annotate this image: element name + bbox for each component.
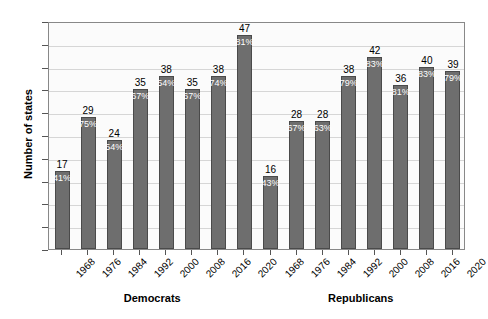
bar-percent-label: 67% — [131, 92, 149, 101]
bar-value-label: 17 — [56, 160, 67, 170]
plot-area: 1741%2975%2454%3567%3854%3567%3874%4781%… — [48, 22, 465, 250]
bar-percent-label: 67% — [288, 124, 306, 133]
bar: 2863% — [315, 121, 330, 249]
bar-value-label: 38 — [161, 65, 172, 75]
x-tick-mark — [400, 250, 401, 255]
bar-percent-label: 74% — [209, 79, 227, 88]
bar: 2454% — [107, 140, 122, 249]
bar-value-label: 40 — [421, 56, 432, 66]
x-tick-mark — [191, 250, 192, 255]
x-tick-label: 2016 — [230, 256, 254, 280]
x-tick-label: 1984 — [334, 256, 358, 280]
x-tick-label: 1968 — [74, 256, 98, 280]
bar: 1643% — [263, 176, 278, 249]
x-tick-mark — [139, 250, 140, 255]
bar-percent-label: 81% — [235, 38, 253, 47]
x-tick-mark — [243, 250, 244, 255]
x-tick-mark — [452, 250, 453, 255]
x-tick-label: 2008 — [412, 256, 436, 280]
bar: 3854% — [159, 76, 174, 249]
x-tick-mark — [348, 250, 349, 255]
x-tick-label: 1984 — [126, 256, 150, 280]
x-tick-mark — [217, 250, 218, 255]
gridline — [49, 69, 464, 70]
bar-value-label: 39 — [447, 60, 458, 70]
x-tick-label: 1992 — [360, 256, 384, 280]
x-tick-mark — [113, 250, 114, 255]
bar-percent-label: 67% — [183, 92, 201, 101]
bar-value-label: 42 — [369, 46, 380, 56]
bar-value-label: 28 — [291, 110, 302, 120]
bar-percent-label: 79% — [340, 79, 358, 88]
x-tick-label: 2016 — [438, 256, 462, 280]
bar: 3874% — [211, 76, 226, 249]
x-tick-mark — [87, 250, 88, 255]
x-tick-label: 1976 — [308, 256, 332, 280]
x-tick-label: 1992 — [152, 256, 176, 280]
x-tick-mark — [322, 250, 323, 255]
bar: 3879% — [341, 76, 356, 249]
x-tick-label: 2000 — [386, 256, 410, 280]
bar: 3979% — [445, 71, 460, 249]
group-label-republicans: Republicans — [301, 292, 421, 304]
x-tick-mark — [270, 250, 271, 255]
bar-percent-label: 41% — [53, 174, 71, 183]
bar: 2867% — [289, 121, 304, 249]
bar-value-label: 38 — [213, 65, 224, 75]
x-tick-label: 2008 — [204, 256, 228, 280]
bar-value-label: 24 — [109, 129, 120, 139]
bar-percent-label: 63% — [314, 124, 332, 133]
bar-value-label: 28 — [317, 110, 328, 120]
x-tick-mark — [61, 250, 62, 255]
bar-value-label: 16 — [265, 165, 276, 175]
bar-value-label: 47 — [239, 24, 250, 34]
bar-percent-label: 81% — [392, 88, 410, 97]
bar-value-label: 38 — [343, 65, 354, 75]
bar-percent-label: 75% — [79, 120, 97, 129]
bar-percent-label: 83% — [366, 60, 384, 69]
x-tick-label: 1968 — [282, 256, 306, 280]
bar: 1741% — [55, 171, 70, 249]
y-axis-title: Number of states — [22, 54, 34, 214]
bar-percent-label: 79% — [444, 74, 462, 83]
bar-value-label: 35 — [135, 78, 146, 88]
bar: 4083% — [419, 67, 434, 249]
bar-value-label: 35 — [187, 78, 198, 88]
bar-percent-label: 54% — [105, 143, 123, 152]
bar: 3681% — [393, 85, 408, 249]
bar-percent-label: 43% — [262, 179, 280, 188]
bar: 3567% — [185, 89, 200, 249]
x-tick-label: 2000 — [178, 256, 202, 280]
bar: 4283% — [367, 57, 382, 249]
bar-percent-label: 54% — [157, 79, 175, 88]
bar-value-label: 36 — [395, 74, 406, 84]
y-tick-mark — [42, 250, 48, 251]
bar-percent-label: 83% — [418, 70, 436, 79]
x-tick-label: 2020 — [464, 256, 488, 280]
bar: 2975% — [81, 117, 96, 249]
x-tick-mark — [374, 250, 375, 255]
gridline — [49, 46, 464, 47]
x-tick-mark — [426, 250, 427, 255]
bar-value-label: 29 — [83, 106, 94, 116]
x-tick-label: 1976 — [100, 256, 124, 280]
x-tick-label: 2020 — [256, 256, 280, 280]
bar: 3567% — [133, 89, 148, 249]
group-label-democrats: Democrats — [92, 292, 212, 304]
x-tick-mark — [296, 250, 297, 255]
bar: 4781% — [237, 35, 252, 249]
x-tick-mark — [165, 250, 166, 255]
